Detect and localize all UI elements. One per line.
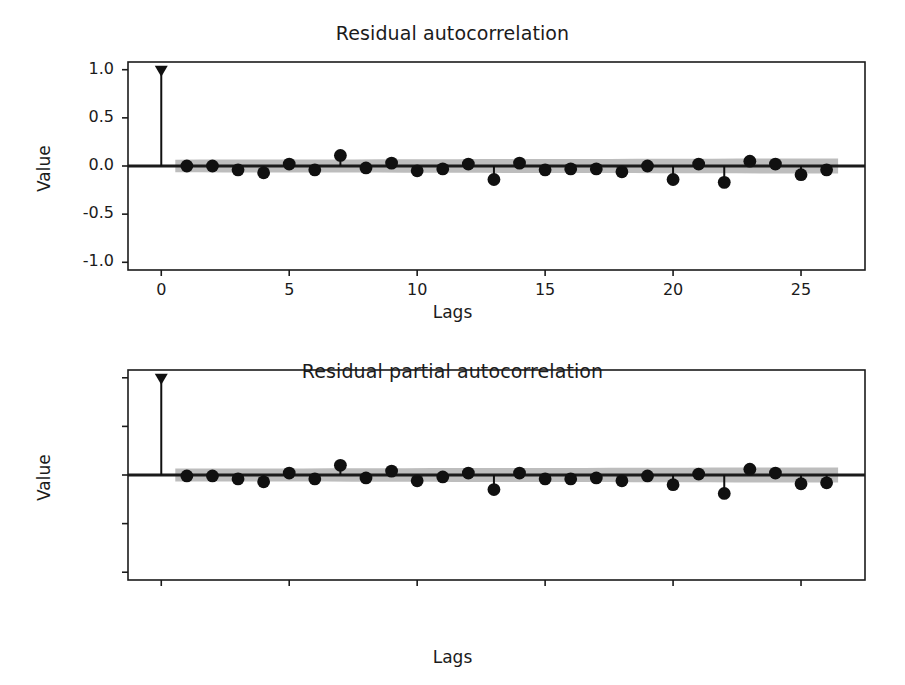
stem-marker [232,472,245,485]
x-tick-label: 25 [771,280,831,299]
y-tick-label: 0.5 [42,107,114,126]
pacf-plot-area [0,338,905,685]
stem-marker [692,158,705,171]
stem-marker [795,168,808,181]
stem-marker [743,155,756,168]
x-tick-label: 0 [131,280,191,299]
stem-marker [718,487,731,500]
stem-marker [539,472,552,485]
stem-marker [180,470,193,483]
x-tick-label: 10 [387,280,447,299]
y-tick-label: -0.5 [42,203,114,222]
pacf-x-axis-label: Lags [0,647,905,667]
stem-marker [436,471,449,484]
stem-marker [206,160,219,173]
pacf-y-axis-label: Value [34,454,54,501]
stem-marker [820,163,833,176]
stem-marker [769,467,782,480]
stem-marker [206,470,219,483]
stem-marker [641,160,654,173]
stem-marker [232,163,245,176]
stem-marker [462,467,475,480]
stem-marker [155,374,168,385]
stem-marker [769,158,782,171]
stem-marker [257,166,270,179]
x-tick-label: 15 [515,280,575,299]
stem-marker [590,162,603,175]
stem-marker [743,463,756,476]
stem-marker [436,162,449,175]
stem-marker [513,157,526,170]
stem-marker [308,163,321,176]
stem-marker [488,483,501,496]
stem-marker [411,164,424,177]
stem-marker [334,149,347,162]
stem-marker [385,465,398,478]
stem-marker [667,173,680,186]
stem-marker [385,157,398,170]
stem-marker [615,474,628,487]
acf-x-axis-label: Lags [0,302,905,322]
stem-marker [590,472,603,485]
y-tick-label: 1.0 [42,59,114,78]
stem-marker [795,477,808,490]
stem-marker [615,165,628,178]
stem-marker [411,474,424,487]
stem-marker [539,163,552,176]
y-tick-label: -1.0 [42,251,114,270]
stem-marker [488,173,501,186]
stem-marker [283,467,296,480]
y-tick-label: 0.0 [42,155,114,174]
panel-residual-partial-autocorrelation: Residual partial autocorrelation Value L… [0,338,905,685]
stem-marker [462,158,475,171]
x-tick-label: 20 [643,280,703,299]
stem-marker [564,162,577,175]
stem-marker [513,467,526,480]
stem-marker [718,176,731,189]
stem-marker [360,162,373,175]
stem-marker [257,475,270,488]
stem-marker [308,472,321,485]
x-tick-label: 5 [259,280,319,299]
stem-marker [360,472,373,485]
panel-residual-autocorrelation: Residual autocorrelation Value Lags 1.00… [0,0,905,340]
stem-marker [334,459,347,472]
stem-marker [283,158,296,171]
stem-marker [564,472,577,485]
stem-marker [180,160,193,173]
stem-marker [820,476,833,489]
stem-marker [692,468,705,481]
stem-marker [155,66,168,77]
stem-marker [641,470,654,483]
figure-canvas: Residual autocorrelation Value Lags 1.00… [0,0,905,685]
stem-marker [667,478,680,491]
